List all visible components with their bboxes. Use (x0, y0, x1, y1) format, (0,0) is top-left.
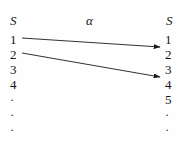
map-label-alpha: α (86, 14, 93, 27)
domain-item: 3 (10, 62, 26, 77)
domain-ellipsis-dot: · (10, 122, 26, 137)
codomain-ellipsis-dot: · (165, 107, 181, 122)
function-mapping-diagram: S α S 1234··· 12345·· (0, 0, 185, 144)
codomain-item: 2 (165, 47, 181, 62)
domain-item: 2 (10, 47, 26, 62)
mapping-arrow (22, 38, 160, 47)
mapping-arrow (22, 53, 160, 77)
codomain-item: 3 (165, 62, 181, 77)
domain-item: 1 (10, 32, 26, 47)
codomain-item: 4 (165, 77, 181, 92)
domain-column: 1234··· (10, 32, 26, 137)
codomain-ellipsis-dot: · (165, 122, 181, 137)
domain-column-header: S (10, 14, 17, 27)
domain-item: 4 (10, 77, 26, 92)
codomain-item: 5 (165, 92, 181, 107)
codomain-item: 1 (165, 32, 181, 47)
domain-ellipsis-dot: · (10, 92, 26, 107)
codomain-column: 12345·· (165, 32, 181, 137)
codomain-column-header: S (166, 14, 173, 27)
domain-ellipsis-dot: · (10, 107, 26, 122)
